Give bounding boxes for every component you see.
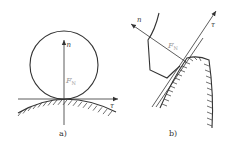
hatch-a (18, 100, 112, 116)
force-label-b: FN (167, 41, 179, 51)
normal-label-b: n (137, 16, 142, 24)
force-label-a: FN (65, 76, 77, 86)
hatch-b-left (162, 57, 201, 106)
support-surface-a (18, 99, 116, 113)
normal-label-a: n (67, 41, 72, 49)
normal-axis-b (131, 24, 186, 62)
caption-b: b) (169, 129, 177, 138)
panel-b: τ n FN (131, 11, 216, 138)
tooth-flank-line (156, 38, 203, 107)
panel-a: n FN τ a) (18, 31, 118, 138)
tangent-label-a: τ (110, 102, 114, 110)
contact-force-diagram: n FN τ a) (0, 0, 229, 147)
tangent-label-b: τ (211, 21, 215, 29)
caption-a: a) (59, 129, 67, 138)
